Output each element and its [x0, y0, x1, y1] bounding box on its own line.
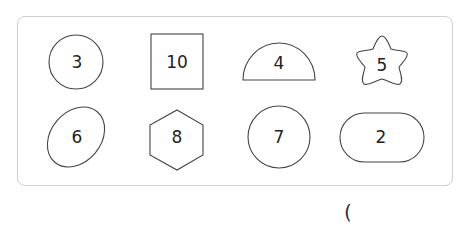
shape-label: 5 [377, 55, 388, 75]
shape-label: 4 [274, 53, 285, 73]
shape-label: 8 [172, 127, 183, 147]
shape-label: 2 [376, 127, 387, 147]
shape-semicircle-4: 4 [243, 43, 315, 80]
shape-ellipse-6: 6 [36, 96, 117, 179]
shape-label: 3 [72, 52, 83, 72]
shape-label: 10 [166, 52, 188, 72]
shape-star-5: 5 [357, 36, 408, 84]
shape-label: 7 [274, 127, 285, 147]
shape-hexagon-8: 8 [150, 110, 203, 170]
shape-circle-3: 3 [49, 35, 103, 89]
shapes-canvas: 3 10 4 5 6 8 7 2 [0, 0, 465, 239]
shape-stadium-2: 2 [340, 113, 424, 162]
answer-blank: ( [344, 200, 352, 224]
shape-square-10: 10 [151, 34, 203, 89]
shape-label: 6 [72, 127, 83, 147]
shape-circle-7: 7 [248, 106, 310, 168]
